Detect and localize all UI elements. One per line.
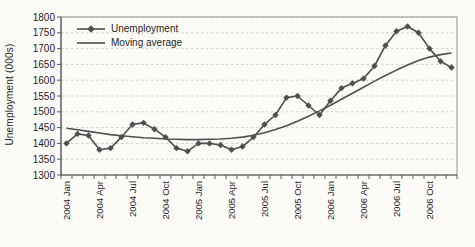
x-tick-label: 2006 Jan xyxy=(325,181,336,220)
data-point-marker xyxy=(349,80,355,86)
x-tick-label: 2005 Oct xyxy=(292,181,303,220)
data-point-marker xyxy=(404,23,410,29)
y-axis-title: Unemployment (000s) xyxy=(4,15,15,175)
y-tick-label: 1800 xyxy=(33,12,56,23)
y-tick-label: 1650 xyxy=(33,59,56,70)
y-tick-label: 1550 xyxy=(33,91,56,102)
y-tick-label: 1750 xyxy=(33,27,56,38)
legend-item-moving-average: Moving average xyxy=(76,36,182,49)
x-tick-label: 2004 Oct xyxy=(160,181,171,220)
x-tick-label: 2005 Jul xyxy=(259,181,270,217)
x-tick-label: 2006 Apr xyxy=(358,181,369,219)
x-tick-label: 2006 Oct xyxy=(424,181,435,220)
y-tick-label: 1600 xyxy=(33,75,56,86)
legend-label-moving-average: Moving average xyxy=(111,37,182,48)
y-tick-label: 1300 xyxy=(33,170,56,181)
x-tick-label: 2005 Apr xyxy=(226,181,237,219)
line-chart: 1300135014001450150015501600165017001750… xyxy=(0,0,475,247)
data-point-marker xyxy=(448,64,454,70)
x-tick-label: 2004 Jul xyxy=(127,181,138,217)
legend-label-unemployment: Unemployment xyxy=(111,23,178,34)
y-tick-label: 1400 xyxy=(33,138,56,149)
x-tick-label: 2004 Jan xyxy=(61,181,72,220)
y-tick-label: 1700 xyxy=(33,43,56,54)
x-tick-label: 2005 Jan xyxy=(193,181,204,220)
y-tick-label: 1500 xyxy=(33,106,56,117)
data-point-marker xyxy=(206,140,212,146)
moving-average-line xyxy=(67,53,452,140)
x-tick-label: 2004 Apr xyxy=(94,181,105,219)
data-point-marker xyxy=(228,147,234,153)
legend: Unemployment Moving average xyxy=(76,22,182,49)
chart-figure: 1300135014001450150015501600165017001750… xyxy=(0,0,475,247)
x-tick-label: 2006 Jul xyxy=(391,181,402,217)
unemployment-series-sample-icon xyxy=(76,24,106,34)
y-tick-label: 1350 xyxy=(33,154,56,165)
legend-item-unemployment: Unemployment xyxy=(76,22,182,35)
data-point-marker xyxy=(217,142,223,148)
moving-average-series-sample-icon xyxy=(76,38,106,48)
y-tick-label: 1450 xyxy=(33,122,56,133)
